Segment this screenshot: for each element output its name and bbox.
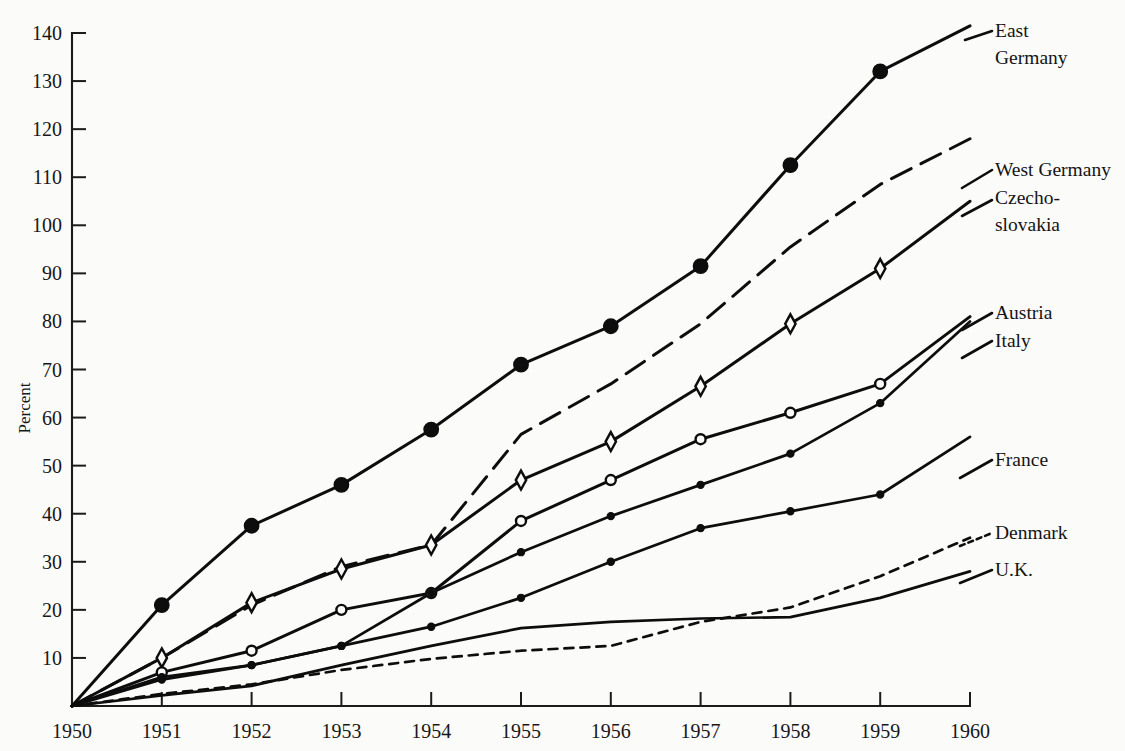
marker-czechoslovakia-1959	[875, 259, 885, 278]
y-tick-label-80: 80	[42, 310, 62, 332]
x-tick-label-1958: 1958	[770, 720, 810, 742]
marker-france-1954	[428, 623, 435, 630]
y-tick-label-70: 70	[42, 359, 62, 381]
label-czechoslovakia: Czecho-	[995, 187, 1060, 208]
y-tick-label-140: 140	[32, 22, 62, 44]
line-chart: EastGermanyWest GermanyCzecho-slovakiaAu…	[0, 0, 1125, 751]
marker-italy-1958	[787, 450, 794, 457]
marker-france-1959	[877, 491, 884, 498]
markers-layer	[155, 64, 888, 683]
marker-czechoslovakia-1958	[785, 314, 795, 333]
marker-france-1957	[697, 525, 704, 532]
leader-west-germany	[962, 170, 992, 188]
figure-root: EastGermanyWest GermanyCzecho-slovakiaAu…	[0, 0, 1125, 751]
marker-east-germany-1951	[155, 598, 169, 612]
x-tick-label-1951: 1951	[142, 720, 182, 742]
series-line-denmark	[72, 538, 970, 706]
axis-text-layer: 1020304050607080901001101201301401950195…	[15, 22, 990, 742]
marker-east-germany-1957	[693, 259, 707, 273]
series-line-czechoslovakia	[72, 201, 970, 706]
y-tick-label-120: 120	[32, 118, 62, 140]
x-tick-label-1955: 1955	[501, 720, 541, 742]
x-tick-label-1953: 1953	[321, 720, 361, 742]
marker-austria-1955	[516, 516, 526, 526]
label-czechoslovakia-line2: slovakia	[995, 214, 1060, 235]
x-tick-label-1954: 1954	[411, 720, 451, 742]
marker-east-germany-1955	[514, 357, 528, 371]
marker-east-germany-1952	[244, 519, 258, 533]
marker-east-germany-1953	[334, 478, 348, 492]
marker-czechoslovakia-1952	[246, 593, 256, 612]
y-tick-label-30: 30	[42, 551, 62, 573]
label-denmark: Denmark	[995, 522, 1068, 543]
label-east-germany-line2: Germany	[995, 47, 1068, 68]
marker-france-1953	[338, 642, 345, 649]
label-uk: U.K.	[995, 559, 1033, 580]
marker-czechoslovakia-1951	[157, 648, 167, 667]
y-tick-label-10: 10	[42, 647, 62, 669]
label-west-germany: West Germany	[995, 159, 1111, 180]
marker-austria-1952	[247, 646, 257, 656]
marker-france-1956	[607, 558, 614, 565]
x-tick-label-1959: 1959	[860, 720, 900, 742]
leader-italy	[962, 341, 992, 358]
marker-italy-1957	[697, 481, 704, 488]
marker-austria-1959	[875, 379, 885, 389]
y-tick-label-110: 110	[33, 166, 62, 188]
marker-italy-1956	[607, 513, 614, 520]
marker-italy-1955	[517, 549, 524, 556]
y-tick-label-50: 50	[42, 455, 62, 477]
marker-italy-1959	[877, 400, 884, 407]
marker-czechoslovakia-1955	[516, 471, 526, 490]
marker-austria-1956	[606, 475, 616, 485]
marker-italy-1954	[428, 589, 435, 596]
leader-lines-layer	[960, 31, 992, 583]
leader-austria	[962, 313, 992, 330]
leader-east-germany	[965, 31, 992, 40]
marker-czechoslovakia-1953	[336, 559, 346, 578]
x-tick-label-1950: 1950	[52, 720, 92, 742]
label-france: France	[995, 449, 1048, 470]
x-tick-label-1960: 1960	[950, 720, 990, 742]
y-tick-label-90: 90	[42, 262, 62, 284]
marker-czechoslovakia-1957	[695, 377, 705, 396]
marker-east-germany-1956	[604, 319, 618, 333]
marker-czechoslovakia-1956	[606, 432, 616, 451]
x-tick-label-1956: 1956	[591, 720, 631, 742]
label-east-germany: East	[995, 20, 1029, 41]
series-line-austria	[72, 317, 970, 706]
y-tick-label-100: 100	[32, 214, 62, 236]
series-line-italy	[72, 321, 970, 706]
marker-east-germany-1959	[873, 64, 887, 78]
label-italy: Italy	[995, 330, 1031, 351]
y-axis-title: Percent	[15, 382, 34, 433]
series-line-west-germany	[72, 139, 970, 706]
marker-france-1952	[248, 662, 255, 669]
marker-france-1951	[158, 676, 165, 683]
marker-austria-1953	[336, 605, 346, 615]
marker-france-1955	[517, 594, 524, 601]
y-tick-label-40: 40	[42, 503, 62, 525]
marker-east-germany-1954	[424, 422, 438, 436]
marker-austria-1957	[696, 434, 706, 444]
y-tick-label-20: 20	[42, 599, 62, 621]
y-tick-label-130: 130	[32, 70, 62, 92]
x-tick-label-1952: 1952	[232, 720, 272, 742]
marker-france-1958	[787, 508, 794, 515]
x-tick-label-1957: 1957	[681, 720, 721, 742]
marker-austria-1958	[785, 408, 795, 418]
series-labels-layer: EastGermanyWest GermanyCzecho-slovakiaAu…	[995, 20, 1111, 580]
leader-france	[960, 460, 992, 478]
y-tick-label-60: 60	[42, 407, 62, 429]
label-austria: Austria	[995, 302, 1053, 323]
marker-east-germany-1958	[783, 158, 797, 172]
